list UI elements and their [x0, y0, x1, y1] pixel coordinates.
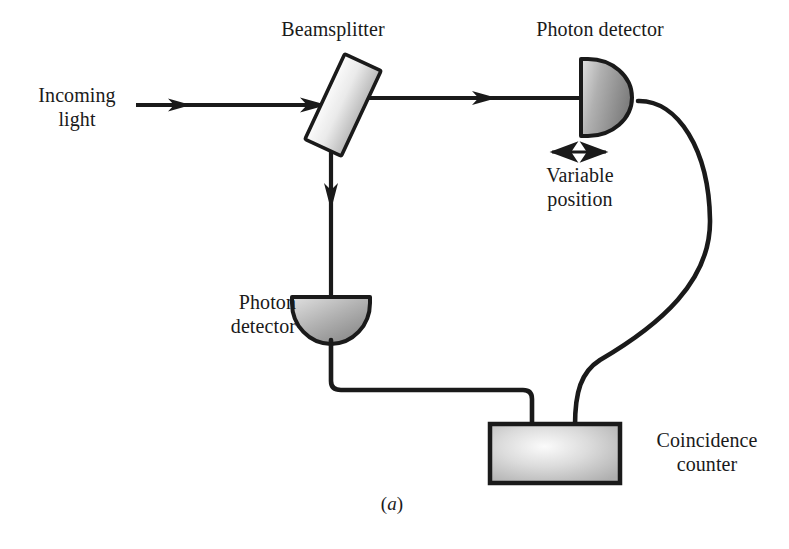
coincidence-counter-box [490, 424, 620, 483]
wire-bottom-detector-to-counter [331, 340, 532, 426]
caption-suffix: ) [397, 493, 403, 514]
label-beamsplitter: Beamsplitter [268, 17, 398, 41]
wire-top-detector-to-counter [575, 101, 710, 426]
incoming-beam [136, 98, 330, 113]
caption-letter: a [387, 493, 397, 514]
photon-detector-top [581, 59, 632, 136]
photon-detector-bottom [292, 297, 370, 344]
photon-coincidence-figure: Beamsplitter Photon detector Incoming li… [0, 0, 789, 549]
label-photon-detector-top: Photon detector [520, 17, 680, 41]
transmitted-beam [350, 91, 584, 105]
figure-caption: (a) [352, 492, 432, 516]
label-incoming-light: Incoming light [22, 83, 132, 131]
label-variable-position: Variable position [518, 163, 642, 211]
label-photon-detector-bottom: Photon detector [176, 290, 296, 338]
label-coincidence-counter: Coincidence counter [632, 428, 782, 476]
